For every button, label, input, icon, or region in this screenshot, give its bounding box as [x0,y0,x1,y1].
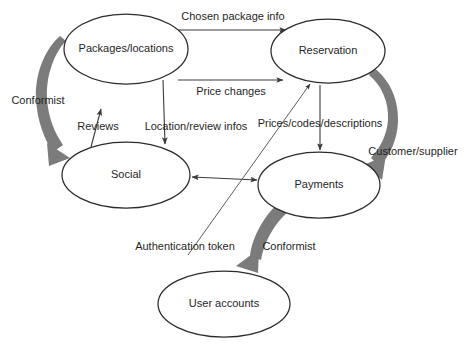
node-label-payments: Payments [295,178,344,190]
edge-label-authentication-token: Authentication token [135,240,235,252]
edge-label-chosen-package-info: Chosen package info [181,10,284,22]
node-label-packages-locations: Packages/locations [79,42,174,54]
edge-label-location-review-infos: Location/review infos [145,120,248,132]
node-label-user-accounts: User accounts [189,297,260,309]
node-label-reservation: Reservation [299,44,358,56]
relationship-label-conformist-bottom: Conformist [262,240,315,252]
diagram-canvas: Packages/locations Reservation Social Pa… [0,0,474,356]
node-label-social: Social [111,168,141,180]
edge-social-payments [192,177,257,180]
edge-label-prices-codes-descriptions: Prices/codes/descriptions [258,117,383,129]
edge-label-reviews: Reviews [77,120,119,132]
relationship-label-conformist-left: Conformist [11,94,64,106]
edge-location-review-infos [163,80,165,144]
context-map-diagram: Packages/locations Reservation Social Pa… [0,0,474,356]
edge-label-price-changes: Price changes [196,85,266,97]
relationship-arrowhead-conformist-bottom [236,249,259,273]
relationship-label-customer-supplier: Customer/supplier [368,145,458,157]
